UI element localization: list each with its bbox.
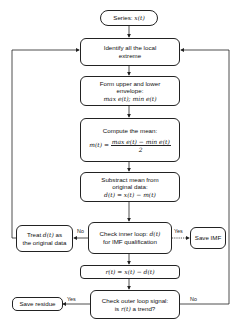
outer-check-line1: Check outer loop signal: <box>102 297 168 305</box>
save-residue-label: Save residue <box>19 300 55 308</box>
outer-loop-check-node: Check outer loop signal: is r(t) a trend… <box>90 290 180 319</box>
identify-extrema-node: Identify all the local extreme <box>80 38 180 66</box>
series-label: Series: <box>113 14 134 21</box>
mean-line1: Compute the mean: <box>103 127 157 135</box>
save-residue-node: Save residue <box>12 297 63 311</box>
inner-check-line2: for IMF qualification <box>103 238 157 246</box>
treat-text: Treat <box>27 231 43 238</box>
treat-math: d(t) <box>43 231 54 238</box>
outer-check-suffix: a trend? <box>131 305 155 312</box>
inner-no-label: No <box>77 228 84 234</box>
subtract-mean-node: Substract mean from original data: d(t) … <box>80 172 180 202</box>
mean-numerator: max e(t) − min e(t) <box>111 138 171 146</box>
residual-math: r(t) = x(t) − d(t) <box>105 268 154 276</box>
treat-suffix: as <box>54 231 62 238</box>
identify-line2: extreme <box>119 52 141 60</box>
inner-loop-check-node: Check inner loop: d(t) for IMF qualifica… <box>88 222 172 254</box>
inner-check-text: Check inner loop: <box>100 230 150 237</box>
inner-check-math: d(t) <box>149 230 160 237</box>
series-math: x(t) <box>134 14 144 21</box>
compute-mean-node: Compute the mean: m(t) = max e(t) − min … <box>80 118 180 162</box>
treat-as-original-node: Treat d(t) as the original data <box>16 225 73 252</box>
residual-node: r(t) = x(t) − d(t) <box>80 265 180 279</box>
mean-fraction: max e(t) − min e(t) 2 <box>111 138 171 153</box>
envelope-line1: Form upper and lower <box>100 80 161 88</box>
treat-line2: the original data <box>22 239 66 247</box>
mean-lhs: m(t) = <box>89 141 109 148</box>
envelope-node: Form upper and lower envelope: max e(t);… <box>80 76 180 106</box>
mean-denominator: 2 <box>139 146 143 153</box>
inner-yes-label: Yes <box>174 228 183 234</box>
outer-check-math: r(t) <box>121 305 131 312</box>
outer-no-label: No <box>190 296 197 302</box>
series-node: Series: x(t) <box>100 10 158 26</box>
outer-yes-label: Yes <box>67 296 76 302</box>
save-imf-label: Save IMF <box>195 234 221 242</box>
envelope-math: max e(t); min e(t) <box>103 95 156 103</box>
subtract-math: d(t) = x(t) − m(t) <box>104 191 156 199</box>
subtract-line2: original data: <box>112 183 147 191</box>
identify-line1: Identify all the local <box>104 44 157 52</box>
subtract-line1: Substract mean from <box>101 176 158 184</box>
flowchart: Series: x(t) Identify all the local extr… <box>0 0 239 329</box>
save-imf-node: Save IMF <box>190 227 226 249</box>
envelope-line2: envelope: <box>117 87 144 95</box>
